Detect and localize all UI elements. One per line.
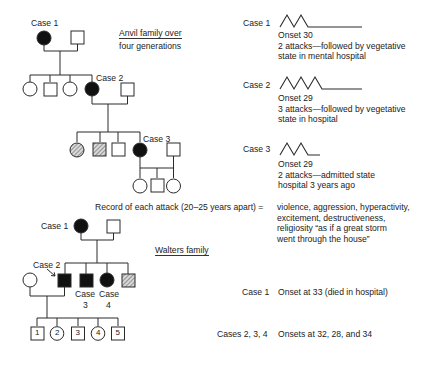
case2-onset: Onset 29 <box>278 93 406 104</box>
case2-attack-chart <box>280 77 362 89</box>
anvil-gen4-female <box>133 179 147 193</box>
case1-desc-line1: 2 attacks—followed by vegetative <box>278 41 406 52</box>
record-line-4: went through the house” <box>277 234 410 245</box>
record-label: Record of each attack (20–25 years apart… <box>95 202 263 213</box>
anvil-case2-label: Case 2 <box>96 73 123 84</box>
case3-chart-label: Case 3 <box>243 144 270 155</box>
walters-gen1-male <box>107 220 120 233</box>
walters-case3-label-a: Case <box>75 289 95 300</box>
walters-case2-label: Case 2 <box>33 260 60 271</box>
case3-attack-chart <box>280 143 320 155</box>
anvil-gen2-female <box>23 82 37 96</box>
walters-case1-affected-female <box>74 219 88 233</box>
child-number-2: 2 <box>55 328 59 339</box>
walters-note1-label: Case 1 <box>242 287 269 298</box>
case1-desc-line2: state in mental hospital <box>278 51 406 62</box>
anvil-title-line1: Anvil family over <box>119 28 182 39</box>
walters-title: Walters family <box>155 245 209 256</box>
case3-notes: Onset 29 2 attacks—admitted state hospit… <box>278 159 375 191</box>
case1-chart-label: Case 1 <box>243 18 270 29</box>
walters-case2-affected-male <box>58 274 71 287</box>
child-number-1: 1 <box>35 328 39 339</box>
record-line-1: violence, aggression, hyperactivity, <box>277 202 410 213</box>
anvil-gen2-male <box>44 83 57 96</box>
record-line-2: excitement, destructiveness, <box>277 213 410 224</box>
case1-notes: Onset 30 2 attacks—followed by vegetativ… <box>278 30 406 62</box>
anvil-case3-affected-female <box>133 143 147 157</box>
walters-case4-label-a: Case <box>99 289 119 300</box>
walters-case1-label: Case 1 <box>41 221 68 232</box>
anvil-case1-label: Case 1 <box>31 18 58 29</box>
anvil-gen2-female <box>63 82 77 96</box>
child-number-5: 5 <box>116 328 120 339</box>
anvil-gen4-male <box>151 179 164 192</box>
walters-note2-text: Onsets at 32, 28, and 34 <box>278 329 372 340</box>
case3-onset: Onset 29 <box>278 159 375 170</box>
record-description: violence, aggression, hyperactivity, exc… <box>277 202 410 244</box>
anvil-gen4-female <box>167 179 181 193</box>
case2-notes: Onset 29 3 attacks—followed by vegetativ… <box>278 93 406 125</box>
case1-attack-chart <box>280 15 362 27</box>
anvil-gen3-spouse-male <box>167 143 180 156</box>
case3-desc-line2: hospital 3 years ago <box>278 180 375 191</box>
walters-case3-affected-male <box>80 274 93 287</box>
anvil-title: Anvil family over <box>119 28 182 39</box>
anvil-title-line2: four generations <box>119 41 181 52</box>
child-number-3: 3 <box>76 328 80 339</box>
anvil-gen3-male <box>112 143 125 156</box>
anvil-gen1-male <box>71 31 84 44</box>
anvil-gen2-spouse-male <box>121 83 134 96</box>
anvil-case1-affected-female <box>37 31 51 45</box>
walters-case3-label-b: 3 <box>83 300 88 311</box>
record-line-3: religiosity “as if a great storm <box>277 223 410 234</box>
case2-desc-line1: 3 attacks—followed by vegetative <box>278 104 406 115</box>
walters-hatched-male <box>122 274 135 287</box>
case1-onset: Onset 30 <box>278 30 406 41</box>
anvil-gen3-hatched-female <box>70 143 84 157</box>
walters-title-text: Walters family <box>155 245 209 256</box>
case2-chart-label: Case 2 <box>243 80 270 91</box>
walters-note2-label: Cases 2, 3, 4 <box>217 329 268 340</box>
walters-case4-label-b: 4 <box>106 300 111 311</box>
child-number-4: 4 <box>96 328 100 339</box>
walters-case4-affected-female <box>100 273 114 287</box>
case3-desc-line1: 2 attacks—admitted state <box>278 170 375 181</box>
walters-spouse-female <box>23 273 37 287</box>
case2-desc-line2: state in hospital <box>278 114 406 125</box>
anvil-case2-affected-female <box>85 82 99 96</box>
anvil-gen3-hatched-male <box>93 143 106 156</box>
anvil-case3-label: Case 3 <box>143 134 170 145</box>
walters-note1-text: Onset at 33 (died in hospital) <box>278 287 388 298</box>
